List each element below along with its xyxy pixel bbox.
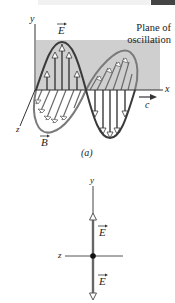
fig-b-y-label: y — [90, 175, 94, 185]
fig-b-down-arrow-icon — [90, 293, 97, 300]
plane-label-line1: Plane of — [127, 22, 171, 34]
fig-b-z-label: z — [58, 250, 62, 260]
fig-b-up-arrow-icon — [90, 213, 97, 220]
c-arrow-icon — [150, 94, 157, 100]
plane-label-line2: oscillation — [127, 34, 171, 46]
z-axis — [20, 90, 35, 126]
b-vector-label: B — [41, 136, 48, 148]
fig-a-y-label: y — [30, 13, 34, 24]
fig-b-e-upper-label: E — [99, 226, 106, 238]
plane-label: Plane of oscillation — [127, 22, 171, 46]
fig-b-e-lower-label: E — [99, 275, 106, 287]
figure-caption: (a) — [81, 147, 93, 158]
fig-a-x-label: x — [165, 83, 169, 94]
fig-a-z-label: z — [16, 124, 20, 134]
fig-b-origin-dot — [90, 253, 96, 259]
e-vector-label: E — [58, 24, 65, 36]
speed-label: c — [145, 99, 149, 110]
